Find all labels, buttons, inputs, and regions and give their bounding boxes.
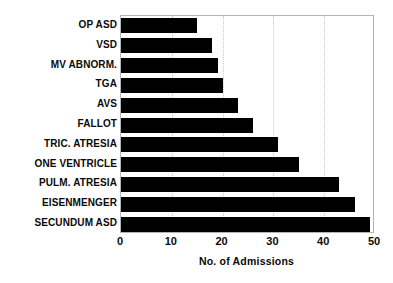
bar <box>121 197 355 212</box>
x-tick-label: 30 <box>266 235 278 247</box>
bar <box>121 157 299 172</box>
bar <box>121 58 218 73</box>
plot-area <box>120 15 374 233</box>
bar <box>121 137 278 152</box>
category-label: TGA <box>96 79 117 89</box>
category-label: TRIC. ATRESIA <box>44 139 117 149</box>
x-axis-title: No. of Admissions <box>0 255 393 267</box>
category-label: OP ASD <box>79 20 117 30</box>
category-label: EISENMENGER <box>42 198 117 208</box>
bar-chart: OP ASDVSDMV ABNORM.TGAAVSFALLOTTRIC. ATR… <box>0 0 393 283</box>
bar <box>121 217 370 232</box>
x-axis-title-text: No. of Admissions <box>199 255 294 267</box>
x-tick-label: 50 <box>368 235 380 247</box>
category-label: PULM. ATRESIA <box>39 178 117 188</box>
category-label: AVS <box>97 99 117 109</box>
x-axis-tick-labels: 01020304050 <box>0 235 393 251</box>
bar <box>121 78 223 93</box>
bar <box>121 38 212 53</box>
category-label: MV ABNORM. <box>51 60 117 70</box>
bar-series <box>121 16 373 232</box>
x-tick-label: 40 <box>317 235 329 247</box>
x-tick-label: 0 <box>117 235 123 247</box>
bar <box>121 18 197 33</box>
category-label: ONE VENTRICLE <box>35 159 117 169</box>
x-tick-label: 10 <box>165 235 177 247</box>
bar <box>121 118 253 133</box>
category-label: SECUNDUM ASD <box>35 218 118 228</box>
bar <box>121 98 238 113</box>
category-label: VSD <box>96 40 117 50</box>
x-tick-label: 20 <box>215 235 227 247</box>
category-label: FALLOT <box>78 119 117 129</box>
bar <box>121 177 339 192</box>
